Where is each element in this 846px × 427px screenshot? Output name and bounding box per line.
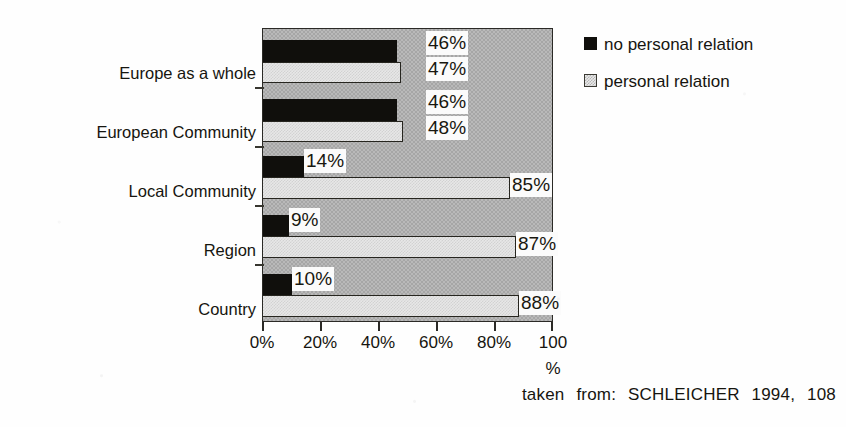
x-axis-tick-label-40: 40% [361, 334, 395, 351]
x-axis-tick [436, 322, 438, 331]
legend-item-label: no personal relation [604, 34, 753, 56]
bar-value-label-no-personal-relation: 10% [292, 267, 334, 291]
y-axis-label-europe-as-a-whole: Europe as a whole [20, 65, 256, 82]
bar-personal-relation[interactable] [263, 236, 516, 258]
legend: no personal relation personal relation [584, 34, 834, 93]
y-axis-tick [255, 205, 264, 207]
bar-chart-figure: Europe as a whole European Community Loc… [0, 0, 846, 427]
bar-group-europe-as-a-whole: 46% 47% [263, 29, 552, 88]
y-axis-label-european-community: European Community [20, 124, 256, 141]
y-axis-ticks [254, 28, 264, 322]
bar-group-region: 9% 87% [263, 206, 552, 265]
bar-no-personal-relation[interactable] [263, 215, 289, 236]
source-attribution: taken from: SCHLEICHER 1994, 108 [0, 386, 836, 403]
dotted-grey-square-icon [584, 74, 597, 87]
y-axis-tick [255, 87, 264, 89]
bar-value-label-personal-relation: 87% [516, 232, 558, 256]
y-axis-label-local-community: Local Community [20, 183, 256, 200]
legend-item-personal-relation[interactable]: personal relation [584, 71, 834, 93]
bar-value-label-personal-relation: 48% [426, 116, 468, 140]
bar-value-label-no-personal-relation: 9% [289, 208, 320, 232]
bar-series-container: 46% 47% 46% 48% 14% 85% 9% [263, 29, 552, 321]
bar-group-european-community: 46% 48% [263, 88, 552, 147]
bar-value-label-personal-relation: 88% [519, 291, 561, 315]
bar-personal-relation[interactable] [263, 62, 401, 83]
y-axis-tick [255, 146, 264, 148]
bar-personal-relation[interactable] [263, 295, 519, 317]
legend-item-label: personal relation [604, 71, 730, 93]
y-axis-tick [255, 264, 264, 266]
y-axis-label-country: Country [20, 301, 256, 318]
x-axis-tick [494, 322, 496, 331]
x-axis-tick-label-80: 80% [477, 334, 511, 351]
bar-value-label-no-personal-relation: 14% [304, 149, 346, 173]
bar-no-personal-relation[interactable] [263, 99, 397, 121]
x-axis-tick-labels: 0% 20% 40% 60% 80% 100 [200, 334, 620, 358]
bar-value-label-personal-relation: 85% [510, 173, 552, 197]
x-axis-tick [320, 322, 322, 331]
filled-black-square-icon [584, 37, 597, 50]
bar-no-personal-relation[interactable] [263, 274, 292, 295]
x-axis-tick-label-100: 100 [539, 334, 567, 351]
bar-group-local-community: 14% 85% [263, 147, 552, 206]
x-axis-tick-label-0: 0% [250, 334, 275, 351]
plot-area: 46% 47% 46% 48% 14% 85% 9% [262, 28, 553, 322]
bar-no-personal-relation[interactable] [263, 156, 304, 177]
x-axis-unit-label: % [545, 360, 560, 377]
y-axis-label-region: Region [20, 242, 256, 259]
bar-personal-relation[interactable] [263, 177, 510, 199]
bar-value-label-personal-relation: 47% [426, 57, 468, 81]
x-axis-tick [378, 322, 380, 331]
bar-personal-relation[interactable] [263, 121, 403, 142]
x-axis-tick [551, 322, 553, 331]
bar-value-label-no-personal-relation: 46% [426, 90, 468, 114]
legend-item-no-personal-relation[interactable]: no personal relation [584, 34, 834, 56]
x-axis-tick-label-20: 20% [303, 334, 337, 351]
x-axis-ticks [262, 322, 553, 332]
bar-value-label-no-personal-relation: 46% [426, 31, 468, 55]
y-axis-category-labels: Europe as a whole European Community Loc… [20, 28, 256, 322]
x-axis-tick [262, 322, 264, 331]
bar-group-country: 10% 88% [263, 265, 552, 323]
bar-no-personal-relation[interactable] [263, 40, 397, 62]
x-axis-tick-label-60: 60% [419, 334, 453, 351]
